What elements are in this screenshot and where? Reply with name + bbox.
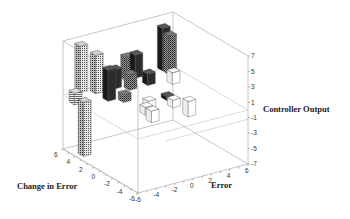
x-tick-label: -2 — [172, 186, 178, 193]
bar3d-chart: -6-4-20246-6-4-202467531-1-3-5-7 Control… — [0, 0, 350, 219]
x-axis-title: Error — [211, 180, 232, 190]
bar — [167, 95, 180, 108]
y-tick-label: -2 — [104, 180, 110, 187]
z-tick-label: -1 — [251, 114, 257, 121]
z-tick-label: 5 — [251, 68, 255, 75]
z-tick-label: -7 — [251, 160, 257, 167]
bars-group — [69, 23, 196, 156]
bar — [124, 70, 137, 91]
bar — [78, 97, 91, 156]
z-tick-label: 7 — [251, 52, 255, 59]
y-axis-title: Change in Error — [17, 181, 78, 191]
y-tick-label: 6 — [54, 151, 58, 158]
y-tick-label: 0 — [92, 173, 96, 180]
bar — [146, 106, 159, 123]
bar — [183, 96, 196, 117]
y-tick-label: -6 — [129, 195, 135, 202]
x-tick-label: 0 — [190, 182, 194, 189]
bar — [103, 65, 116, 101]
x-tick-label: -6 — [135, 196, 141, 203]
x-tick-label: 6 — [245, 167, 249, 174]
z-tick-label: -5 — [251, 145, 257, 152]
x-tick-label: 4 — [227, 172, 231, 179]
bar — [90, 50, 103, 94]
bar — [118, 90, 131, 103]
x-tick-label: -4 — [153, 191, 159, 198]
z-tick-label: 3 — [251, 83, 255, 90]
y-tick-label: -4 — [117, 188, 123, 195]
z-tick-label: 1 — [251, 99, 255, 106]
bar — [142, 69, 155, 86]
z-axis-title: Controller Output — [263, 104, 330, 114]
bar — [167, 68, 180, 85]
y-tick-label: 2 — [79, 166, 83, 173]
z-tick-label: -3 — [251, 129, 257, 136]
bar — [75, 41, 88, 92]
y-tick-label: 4 — [67, 158, 71, 165]
